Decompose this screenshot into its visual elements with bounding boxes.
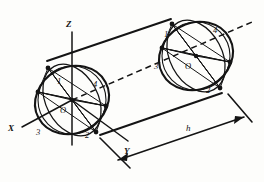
back-point-label-3: 3 bbox=[154, 62, 158, 71]
back-radius-2 bbox=[196, 56, 220, 88]
dim-line-h bbox=[118, 117, 244, 160]
axis-label-y: Y bbox=[124, 147, 130, 156]
technical-drawing-canvas: Z X Y h O 1 2 3 4 O 1 2 3 4 bbox=[0, 0, 264, 182]
back-node-4 bbox=[228, 60, 233, 65]
cylinder-body-outline bbox=[47, 19, 222, 135]
back-point-label-4: 4 bbox=[213, 26, 217, 35]
back-point-label-2: 2 bbox=[206, 86, 210, 95]
back-node-2 bbox=[218, 86, 223, 91]
back-node-3 bbox=[160, 46, 165, 51]
front-point-label-2: 2 bbox=[85, 131, 89, 140]
front-point-label-1: 1 bbox=[57, 77, 61, 86]
back-node-1 bbox=[170, 22, 175, 27]
front-radius-2 bbox=[72, 100, 96, 132]
front-node-2 bbox=[94, 130, 99, 135]
front-point-label-3: 3 bbox=[36, 128, 40, 137]
front-node-4 bbox=[104, 104, 109, 109]
axis-label-x: X bbox=[8, 124, 14, 133]
front-node-1 bbox=[46, 66, 51, 71]
axis-label-z: Z bbox=[66, 20, 72, 29]
height-dimension-group bbox=[100, 94, 252, 168]
back-point-label-1: 1 bbox=[164, 30, 168, 39]
back-face-center-label: O bbox=[185, 62, 191, 71]
dimension-label-h: h bbox=[186, 124, 191, 133]
front-face-center-label: O bbox=[60, 106, 66, 115]
back-node-center bbox=[194, 54, 198, 58]
dim-arrow-right bbox=[234, 116, 244, 124]
generatrix-bottom bbox=[100, 93, 222, 135]
front-point-label-4: 4 bbox=[93, 80, 97, 89]
front-node-3 bbox=[36, 90, 41, 95]
isometric-cylinder-figure bbox=[0, 0, 264, 182]
